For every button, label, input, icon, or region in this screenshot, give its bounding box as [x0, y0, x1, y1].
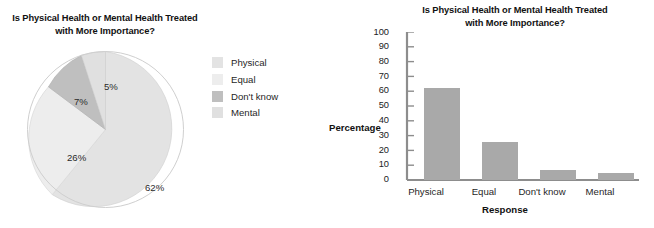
legend-label-equal: Equal [231, 74, 256, 85]
bar-equal [482, 142, 518, 181]
legend-swatch-mental [212, 107, 223, 118]
bar-dont-know [540, 170, 576, 180]
legend-swatch-equal [212, 74, 223, 85]
bar-physical [424, 88, 460, 180]
y-tick-90: 90 [363, 42, 389, 51]
y-tick-30: 30 [363, 131, 389, 140]
bar-title-line2: with More Importance? [465, 18, 565, 28]
legend-label-dont-know: Don't know [231, 91, 278, 102]
bar-title-line1: Is Physical Health or Mental Health Trea… [422, 5, 607, 15]
pie-label-equal: 26% [67, 152, 86, 163]
pie-legend: Physical Equal Don't know Mental [212, 55, 322, 122]
y-tick-40: 40 [363, 116, 389, 125]
y-tick-70: 70 [363, 72, 389, 81]
legend-label-physical: Physical [231, 57, 267, 68]
pie-label-physical: 62% [145, 182, 164, 193]
y-tick-80: 80 [363, 57, 389, 66]
pie-title-line2: with More Importance? [55, 26, 155, 36]
y-tick-60: 60 [363, 86, 389, 95]
bar-column-mental[interactable] [598, 32, 634, 180]
x-tick-dont-know: Don't know [509, 186, 575, 197]
x-tick-mental: Mental [567, 186, 633, 197]
y-tick-0: 0 [363, 175, 389, 184]
pie-label-dont-know: 7% [74, 96, 88, 107]
bar-mental [598, 173, 634, 180]
pie-label-mental: 5% [104, 81, 118, 92]
legend-item-physical: Physical [212, 55, 322, 71]
legend-label-mental: Mental [231, 107, 260, 118]
y-tick-50: 50 [363, 101, 389, 110]
x-tick-physical: Physical [393, 186, 459, 197]
pie-title-line1: Is Physical Health or Mental Health Trea… [12, 13, 197, 23]
figure-two-charts: Is Physical Health or Mental Health Trea… [0, 0, 654, 228]
bar-column-equal[interactable] [482, 32, 518, 180]
y-tick-20: 20 [363, 146, 389, 155]
bar-plot-area [395, 32, 640, 184]
pie-chart-panel: Is Physical Health or Mental Health Trea… [0, 0, 327, 228]
legend-item-mental: Mental [212, 105, 322, 121]
bar-column-physical[interactable] [424, 32, 460, 180]
legend-swatch-physical [212, 57, 223, 68]
pie-graphic: 62% 26% 7% 5% [27, 51, 184, 208]
legend-item-equal: Equal [212, 72, 322, 88]
x-tick-equal: Equal [451, 186, 517, 197]
bar-chart-panel: Is Physical Health or Mental Health Trea… [327, 0, 654, 228]
y-tick-100: 100 [363, 28, 389, 37]
legend-swatch-dont-know [212, 91, 223, 102]
legend-item-dont-know: Don't know [212, 88, 322, 104]
bars-layer [408, 32, 640, 180]
y-tick-10: 10 [363, 160, 389, 169]
bar-x-axis-label: Response [482, 204, 528, 215]
bar-chart-title: Is Physical Health or Mental Health Trea… [399, 4, 631, 29]
bar-column-dont-know[interactable] [540, 32, 576, 180]
pie-chart-title: Is Physical Health or Mental Health Trea… [2, 12, 208, 37]
